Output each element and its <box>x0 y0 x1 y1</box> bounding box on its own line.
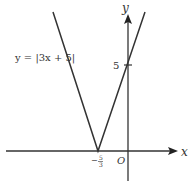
y-axis-label: y <box>121 1 129 15</box>
graph: y x O 5 y = |3x + 5| − 5 3 <box>0 0 188 183</box>
function-label: y = |3x + 5| <box>14 52 75 64</box>
vertex-label-denominator: 3 <box>99 161 103 168</box>
svg-text:−: − <box>91 156 98 165</box>
vertex-label: − 5 3 <box>91 154 103 168</box>
function-curve <box>53 12 145 151</box>
x-axis-label: x <box>181 145 188 159</box>
origin-label: O <box>117 155 125 166</box>
vertex-label-numerator: 5 <box>99 154 103 161</box>
y-intercept-label: 5 <box>113 60 119 71</box>
